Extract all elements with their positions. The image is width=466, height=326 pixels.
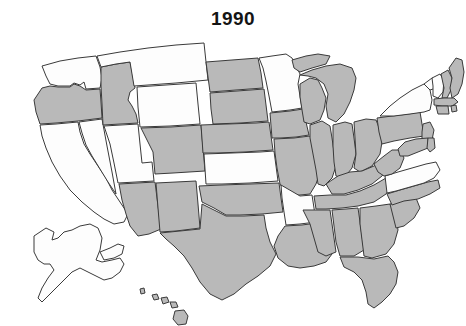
state-WA: Washington [42,56,102,89]
state-AL: Alabama [332,208,364,256]
state-NE: Nebraska [201,122,273,153]
state-WI: Wisconsin [300,78,326,124]
state-KS: Kansas [204,151,278,184]
state-AZ: Arizona [119,182,161,236]
state-SD: South Dakota [210,89,268,124]
state-OR: Oregon [34,84,102,124]
state-WY: Wyoming [137,83,200,127]
state-NY: New York [380,78,438,116]
us-map-svg: Washington Oregon California Nevada Idah… [0,26,466,326]
state-MD: Maryland [398,138,428,156]
state-RI: Rhode Island [451,105,457,112]
state-DE: Delaware [427,138,435,152]
us-choropleth-map-figure: 1990 Washington Oregon California Nevada… [0,0,466,326]
state-NM: New Mexico [156,181,200,232]
state-IN: Indiana [333,122,356,178]
state-FL: Florida [340,256,398,308]
states-layer: Washington Oregon California Nevada Idah… [34,43,464,325]
state-AK: Alaska [34,224,124,302]
state-CT: Connecticut [436,106,449,114]
state-ND: North Dakota [206,58,263,92]
state-MA: Massachusetts [434,98,458,106]
state-HI: Hawaii [140,288,188,325]
